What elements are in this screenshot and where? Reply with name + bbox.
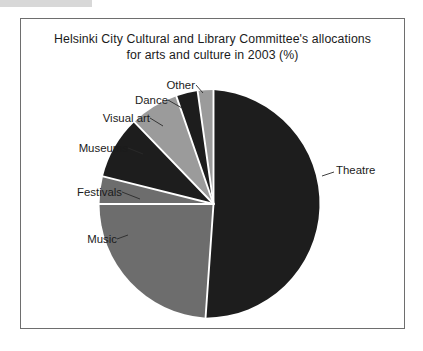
pie-label-festivals: Festivals — [52, 186, 122, 198]
pie-label-visual-art: Visual art — [74, 112, 150, 124]
chart-title: Helsinki City Cultural and Library Commi… — [21, 31, 404, 63]
pie-label-other: Other — [141, 79, 195, 91]
pie-label-music: Music — [59, 233, 117, 245]
scan-artifact — [0, 0, 92, 7]
pie-label-theatre: Theatre — [336, 164, 375, 176]
pie-label-museums: Museums — [56, 142, 128, 154]
pie-label-dance: Dance — [112, 94, 168, 106]
